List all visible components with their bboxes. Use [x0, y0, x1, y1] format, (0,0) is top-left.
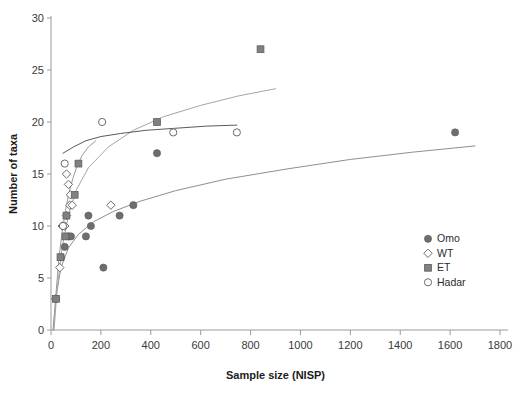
x-tick-label: 1800 — [488, 339, 512, 351]
y-tick-label: 25 — [32, 64, 44, 76]
data-point-et — [57, 254, 64, 261]
data-point-omo — [87, 222, 94, 229]
x-tick-label: 200 — [92, 339, 110, 351]
y-axis-title: Number of taxa — [7, 133, 19, 214]
y-tick-label: 30 — [32, 12, 44, 24]
y-tick-label: 5 — [38, 272, 44, 284]
y-tick-label: 15 — [32, 168, 44, 180]
data-point-et — [63, 212, 70, 219]
data-point-omo — [130, 202, 137, 209]
data-point-omo — [116, 212, 123, 219]
data-point-wt — [56, 263, 64, 271]
legend-marker-omo — [424, 235, 431, 242]
data-point-hadar — [233, 129, 240, 136]
x-tick-label: 400 — [142, 339, 160, 351]
data-point-et — [62, 233, 69, 240]
data-point-omo — [61, 243, 68, 250]
legend-label-et: ET — [437, 261, 451, 273]
data-point-hadar — [61, 160, 68, 167]
data-point-wt — [107, 201, 115, 209]
data-point-et — [75, 160, 82, 167]
x-tick-label: 1600 — [438, 339, 462, 351]
legend-label-hadar: Hadar — [437, 276, 466, 288]
data-point-omo — [100, 264, 107, 271]
data-point-et — [53, 295, 60, 302]
legend-marker-hadar — [424, 279, 431, 286]
trend-line-et — [54, 89, 276, 330]
x-tick-label: 600 — [191, 339, 209, 351]
x-tick-label: 1000 — [288, 339, 312, 351]
data-point-omo — [85, 212, 92, 219]
trend-line-hadar — [63, 125, 237, 153]
y-tick-label: 20 — [32, 116, 44, 128]
chart-canvas: 0510152025300200400600800100012001400160… — [0, 0, 528, 399]
data-point-hadar — [59, 222, 66, 229]
x-tick-label: 800 — [241, 339, 259, 351]
legend-label-wt: WT — [437, 247, 454, 259]
data-point-omo — [82, 233, 89, 240]
x-tick-label: 1400 — [388, 339, 412, 351]
data-point-omo — [153, 150, 160, 157]
y-tick-label: 0 — [38, 324, 44, 336]
data-point-hadar — [99, 118, 106, 125]
data-point-omo — [452, 129, 459, 136]
trend-line-omo — [53, 146, 475, 330]
data-point-wt — [62, 170, 70, 178]
data-point-et — [257, 46, 264, 53]
data-point-wt — [64, 180, 72, 188]
legend-label-omo: Omo — [437, 232, 460, 244]
legend-marker-wt — [424, 249, 432, 257]
data-point-et — [71, 191, 78, 198]
x-tick-label: 0 — [48, 339, 54, 351]
data-point-hadar — [170, 129, 177, 136]
legend-marker-et — [425, 264, 432, 271]
data-point-et — [154, 119, 161, 126]
x-axis-title: Sample size (NISP) — [226, 369, 325, 381]
y-tick-label: 10 — [32, 220, 44, 232]
scatter-chart: 0510152025300200400600800100012001400160… — [0, 0, 528, 399]
x-tick-label: 1200 — [338, 339, 362, 351]
